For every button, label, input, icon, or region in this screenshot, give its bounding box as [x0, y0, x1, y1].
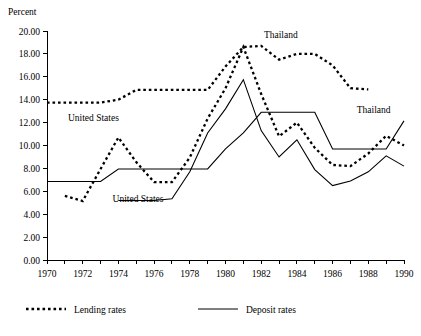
x-tick-label: 1978	[180, 269, 199, 279]
y-tick-label: 16.00	[19, 72, 41, 82]
x-tick-label: 1988	[359, 269, 378, 279]
y-tick-label: 0.00	[23, 256, 40, 266]
y-axis-ticks: 0.002.004.006.008.0010.0012.0014.0016.00…	[19, 27, 47, 266]
y-tick-label: 18.00	[19, 49, 41, 59]
y-tick-label: 8.00	[23, 164, 40, 174]
y-tick-label: 14.00	[19, 95, 41, 105]
legend-label-deposit-rates: Deposit rates	[246, 305, 296, 315]
y-axis-title: Percent	[8, 7, 37, 17]
series-annotation-thailand: Thailand	[264, 30, 298, 40]
series-line-united-states-lending-rates	[65, 47, 404, 201]
series-annotation-united-states: United States	[68, 113, 119, 123]
x-tick-label: 1970	[38, 269, 57, 279]
y-tick-label: 20.00	[19, 27, 41, 37]
x-tick-label: 1974	[109, 269, 128, 279]
x-tick-label: 1984	[287, 269, 306, 279]
series-annotations: ThailandThailandUnited StatesUnited Stat…	[68, 30, 391, 204]
series-annotation-united-states: United States	[113, 194, 164, 204]
x-tick-label: 1990	[395, 269, 414, 279]
chart-canvas: 0.002.004.006.008.0010.0012.0014.0016.00…	[0, 0, 421, 336]
x-axis-ticks: 1970197219741976197819801982198419861988…	[38, 260, 414, 279]
legend-label-lending-rates: Lending rates	[74, 305, 126, 315]
y-tick-label: 2.00	[23, 233, 40, 243]
y-tick-label: 4.00	[23, 210, 40, 220]
y-tick-label: 12.00	[19, 118, 41, 128]
y-tick-label: 10.00	[19, 141, 41, 151]
series-line-thailand-lending-rates	[47, 46, 368, 103]
y-tick-label: 6.00	[23, 187, 40, 197]
x-tick-label: 1982	[252, 269, 271, 279]
interest-rates-chart: 0.002.004.006.008.0010.0012.0014.0016.00…	[0, 0, 421, 336]
chart-legend: Lending ratesDeposit rates	[26, 305, 296, 315]
x-tick-label: 1976	[145, 269, 164, 279]
x-tick-label: 1980	[216, 269, 235, 279]
x-tick-label: 1972	[73, 269, 92, 279]
x-tick-label: 1986	[323, 269, 342, 279]
series-annotation-thailand: Thailand	[357, 105, 391, 115]
